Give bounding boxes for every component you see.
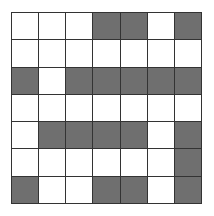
grid-cell-r6-c3 — [93, 177, 119, 203]
grid-cell-r0-c6 — [175, 13, 201, 39]
grid-cell-r5-c6 — [175, 149, 201, 175]
grid-cell-r2-c2 — [66, 68, 92, 94]
grid-cell-r3-c0 — [12, 95, 38, 121]
grid-cell-r4-c4 — [121, 122, 147, 148]
grid-cell-r4-c5 — [148, 122, 174, 148]
grid-cell-r1-c6 — [175, 40, 201, 66]
grid-cell-r3-c5 — [148, 95, 174, 121]
grid-cell-r3-c3 — [93, 95, 119, 121]
grid-cell-r4-c3 — [93, 122, 119, 148]
grid-cell-r0-c1 — [39, 13, 65, 39]
grid-cell-r6-c2 — [66, 177, 92, 203]
grid-cell-r5-c0 — [12, 149, 38, 175]
grid-cell-r0-c4 — [121, 13, 147, 39]
grid-cell-r2-c5 — [148, 68, 174, 94]
grid-cell-r1-c3 — [93, 40, 119, 66]
grid-cell-r6-c4 — [121, 177, 147, 203]
grid-cell-r2-c0 — [12, 68, 38, 94]
grid-cell-r5-c5 — [148, 149, 174, 175]
grid-cell-r3-c1 — [39, 95, 65, 121]
grid-cell-r5-c4 — [121, 149, 147, 175]
grid-cell-r1-c0 — [12, 40, 38, 66]
grid-cell-r6-c6 — [175, 177, 201, 203]
grid-cell-r5-c2 — [66, 149, 92, 175]
grid-cell-r1-c2 — [66, 40, 92, 66]
grid-cell-r1-c5 — [148, 40, 174, 66]
grid-cell-r0-c5 — [148, 13, 174, 39]
grid-cell-r1-c4 — [121, 40, 147, 66]
grid-cell-r0-c2 — [66, 13, 92, 39]
grid-cell-r0-c0 — [12, 13, 38, 39]
grid-cell-r0-c3 — [93, 13, 119, 39]
grid-cell-r2-c3 — [93, 68, 119, 94]
grid-cell-r4-c2 — [66, 122, 92, 148]
grid-cell-r6-c5 — [148, 177, 174, 203]
grid-cell-r4-c0 — [12, 122, 38, 148]
grid-cell-r2-c1 — [39, 68, 65, 94]
grid-cell-r5-c3 — [93, 149, 119, 175]
grid-cell-r1-c1 — [39, 40, 65, 66]
grid-cell-r2-c4 — [121, 68, 147, 94]
grid-cell-r3-c2 — [66, 95, 92, 121]
grid-cell-r6-c1 — [39, 177, 65, 203]
grid-cell-r5-c1 — [39, 149, 65, 175]
grid-cell-r4-c6 — [175, 122, 201, 148]
grid-cell-r3-c4 — [121, 95, 147, 121]
grid-cell-r3-c6 — [175, 95, 201, 121]
pixel-grid — [11, 12, 202, 204]
grid-cell-r2-c6 — [175, 68, 201, 94]
grid-cell-r4-c1 — [39, 122, 65, 148]
grid-cell-r6-c0 — [12, 177, 38, 203]
